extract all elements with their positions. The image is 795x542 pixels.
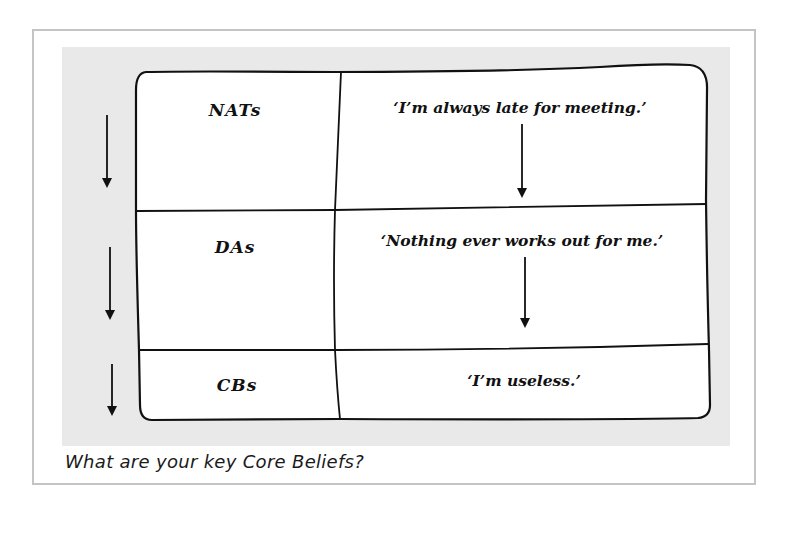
figure-caption: What are your key Core Beliefs? (65, 451, 364, 472)
statement-cbs: ‘I’m useless.’ (467, 371, 581, 390)
row-label-nats: NATs (208, 100, 261, 120)
row-label-das: DAs (214, 237, 256, 257)
statement-nats: ‘I’m always late for meeting.’ (393, 98, 646, 117)
statement-das: ‘Nothing ever works out for me.’ (381, 231, 664, 250)
row-label-cbs: CBs (217, 375, 257, 395)
